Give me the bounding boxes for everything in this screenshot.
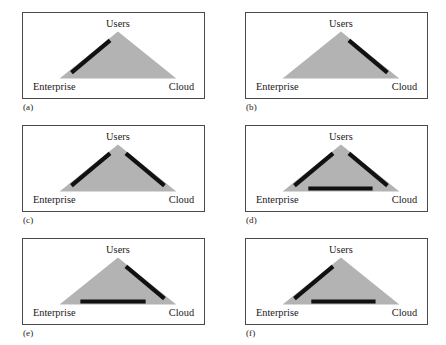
- label-users: Users: [106, 244, 130, 255]
- panel-d-caption: (d): [246, 215, 257, 226]
- panel-a: Users Enterprise Cloud (a): [22, 12, 229, 124]
- label-users: Users: [329, 244, 353, 255]
- label-enterprise: Enterprise: [256, 307, 299, 318]
- panel-e-diagram: Users Enterprise Cloud: [23, 239, 204, 324]
- triangle-shape: [60, 32, 177, 79]
- panel-f-diagram: Users Enterprise Cloud: [246, 239, 427, 324]
- panel-e: Users Enterprise Cloud (e): [22, 238, 229, 345]
- panel-c-diagram: Users Enterprise Cloud: [23, 126, 204, 211]
- panel-c-frame: Users Enterprise Cloud: [22, 125, 205, 212]
- label-users: Users: [106, 131, 130, 142]
- panel-b-frame: Users Enterprise Cloud: [245, 12, 428, 99]
- panel-e-caption: (e): [23, 328, 33, 339]
- label-enterprise: Enterprise: [33, 81, 76, 92]
- label-cloud: Cloud: [169, 81, 195, 92]
- figure-panel-grid: Users Enterprise Cloud (a) Users Enterpr…: [0, 0, 446, 345]
- panel-b-diagram: Users Enterprise Cloud: [246, 13, 427, 98]
- panel-b: Users Enterprise Cloud (b): [245, 12, 446, 124]
- panel-a-diagram: Users Enterprise Cloud: [23, 13, 204, 98]
- triangle-shape: [60, 145, 177, 192]
- label-cloud: Cloud: [169, 194, 195, 205]
- panel-f-frame: Users Enterprise Cloud: [245, 238, 428, 325]
- triangle-shape: [283, 258, 400, 305]
- label-cloud: Cloud: [169, 307, 195, 318]
- panel-e-frame: Users Enterprise Cloud: [22, 238, 205, 325]
- label-cloud: Cloud: [392, 194, 418, 205]
- label-enterprise: Enterprise: [256, 81, 299, 92]
- label-enterprise: Enterprise: [256, 194, 299, 205]
- panel-d-frame: Users Enterprise Cloud: [245, 125, 428, 212]
- label-cloud: Cloud: [392, 307, 418, 318]
- triangle-shape: [283, 145, 400, 192]
- triangle-shape: [283, 32, 400, 79]
- panel-d: Users Enterprise Cloud (d): [245, 125, 446, 237]
- triangle-shape: [60, 258, 177, 305]
- label-enterprise: Enterprise: [33, 307, 76, 318]
- panel-d-diagram: Users Enterprise Cloud: [246, 126, 427, 211]
- label-cloud: Cloud: [392, 81, 418, 92]
- panel-c: Users Enterprise Cloud (c): [22, 125, 229, 237]
- panel-b-caption: (b): [246, 102, 257, 113]
- label-enterprise: Enterprise: [33, 194, 76, 205]
- label-users: Users: [106, 18, 130, 29]
- label-users: Users: [329, 18, 353, 29]
- label-users: Users: [329, 131, 353, 142]
- panel-f: Users Enterprise Cloud (f): [245, 238, 446, 345]
- panel-c-caption: (c): [23, 215, 33, 226]
- panel-a-caption: (a): [23, 102, 33, 113]
- panel-f-caption: (f): [246, 328, 255, 339]
- panel-a-frame: Users Enterprise Cloud: [22, 12, 205, 99]
